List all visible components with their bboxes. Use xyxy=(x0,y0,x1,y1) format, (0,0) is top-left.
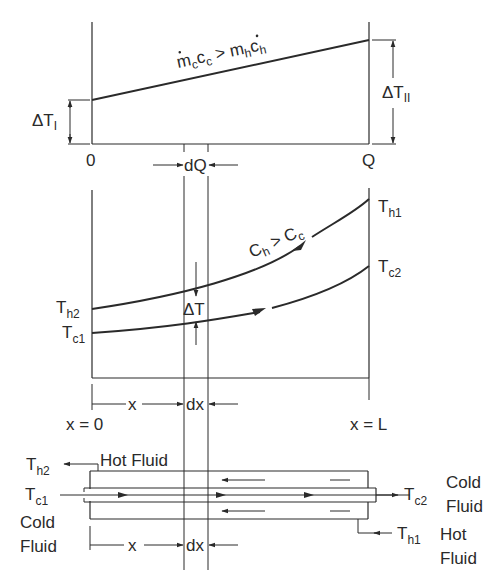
exchanger-tc1-label: Tc1 xyxy=(25,485,48,508)
delta-t2-label: ΔTII xyxy=(382,83,410,105)
delta-t-label: ΔT xyxy=(183,300,205,319)
exchanger-dx-label: dx xyxy=(186,536,204,555)
tc1-label: Tc1 xyxy=(62,323,85,346)
exchanger-th1-label: Th1 xyxy=(397,524,421,547)
inner-flow-arrow-1 xyxy=(118,492,128,498)
exchanger-th2-label: Th2 xyxy=(26,455,50,478)
top-plot-delta-t-vs-q: mccc > mhch ΔTI ΔTII 0 Q dQ xyxy=(32,22,410,175)
cold-fluid-curve-right xyxy=(272,266,369,308)
hot-outlet-pipe xyxy=(78,464,98,471)
tc2-label: Tc2 xyxy=(378,257,401,280)
top-condition-label: mccc > mhch xyxy=(175,33,268,75)
cold-fluid-left-label-2: Fluid xyxy=(20,537,57,556)
svg-text:Ch > Cc: Ch > Cc xyxy=(246,221,307,264)
counterflow-exchanger-schematic: Th2 Hot Fluid Tc1 Cold Fluid Tc2 Cold Fl… xyxy=(20,451,483,568)
th1-label: Th1 xyxy=(378,197,402,220)
hot-fluid-curve-right xyxy=(312,199,369,237)
cold-fluid-left-label-1: Cold xyxy=(20,513,55,532)
middle-plot-temperature-profile: Ch > Cc ΔT Th1 Tc2 Th2 Tc1 x dx x = 0 x … xyxy=(56,188,402,434)
inner-flow-arrow-3 xyxy=(304,492,314,498)
hot-inlet-pipe xyxy=(358,519,378,533)
hot-fluid-right-label-2: Fluid xyxy=(440,549,477,568)
delta-t1-label: ΔTI xyxy=(32,111,57,133)
x-dimension-label: x xyxy=(128,395,137,414)
cold-fluid-right-label-1: Cold xyxy=(446,473,481,492)
top-axis-origin-label: 0 xyxy=(86,151,95,170)
middle-condition-label: Ch > Cc xyxy=(246,221,307,264)
counterflow-heat-exchanger-diagram: mccc > mhch ΔTI ΔTII 0 Q dQ xyxy=(0,0,502,586)
cold-fluid-curve-left xyxy=(92,312,260,333)
x-equals-zero-label: x = 0 xyxy=(66,415,103,434)
th2-label: Th2 xyxy=(56,298,80,321)
dq-label: dQ xyxy=(184,156,207,175)
exchanger-tc2-label: Tc2 xyxy=(404,485,427,508)
hot-fluid-top-label: Hot Fluid xyxy=(100,451,168,470)
inner-flow-arrow-2 xyxy=(216,492,226,498)
top-axis-q-label: Q xyxy=(362,151,375,170)
x-equals-l-label: x = L xyxy=(350,415,387,434)
svg-text:mccc > mhch: mccc > mhch xyxy=(175,35,268,75)
hot-fluid-right-label-1: Hot xyxy=(440,525,467,544)
cold-flow-arrow xyxy=(252,308,266,316)
cold-fluid-right-label-2: Fluid xyxy=(446,497,483,516)
exchanger-x-label: x xyxy=(128,536,137,555)
dx-dimension-label: dx xyxy=(186,395,204,414)
